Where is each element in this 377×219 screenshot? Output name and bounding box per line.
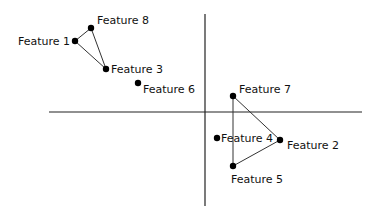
point-marker-icon [277,137,283,143]
point-label: Feature 3 [111,63,163,76]
point-label: Feature 5 [231,173,283,186]
scatter-chart: Feature 1Feature 8Feature 3Feature 6Feat… [0,0,377,219]
feature-points: Feature 1Feature 8Feature 3Feature 6Feat… [18,14,339,186]
point-marker-icon [230,93,236,99]
data-point: Feature 7 [230,83,291,99]
point-label: Feature 7 [239,83,291,96]
point-marker-icon [72,38,78,44]
point-label: Feature 8 [97,14,149,27]
point-label: Feature 2 [287,139,339,152]
data-point: Feature 3 [103,63,163,76]
data-point: Feature 1 [18,35,78,48]
point-label: Feature 6 [143,83,195,96]
point-label: Feature 1 [18,35,70,48]
point-label: Feature 4 [221,132,273,145]
point-marker-icon [135,80,141,86]
data-point: Feature 8 [88,14,149,31]
cluster-edges [75,28,280,166]
point-marker-icon [214,135,220,141]
data-point: Feature 4 [214,132,273,145]
data-point: Feature 6 [135,80,195,96]
data-point: Feature 5 [230,163,283,186]
point-marker-icon [88,25,94,31]
point-marker-icon [103,66,109,72]
data-point: Feature 2 [277,137,339,152]
point-marker-icon [230,163,236,169]
